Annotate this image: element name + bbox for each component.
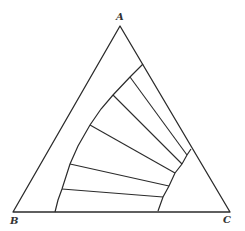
tie-line [113, 95, 182, 164]
vertex-label-c: C [223, 214, 231, 225]
tie-line [90, 125, 175, 173]
tie-line [130, 77, 187, 155]
ternary-diagram-svg: A B C [0, 0, 245, 231]
ternary-diagram: A B C [0, 0, 245, 231]
triangle-outline [13, 26, 230, 212]
tie-line [62, 189, 163, 197]
vertex-label-b: B [9, 215, 18, 226]
binodal-curve-right [158, 149, 191, 211]
tie-line [70, 164, 169, 186]
vertex-label-a: A [115, 11, 124, 22]
